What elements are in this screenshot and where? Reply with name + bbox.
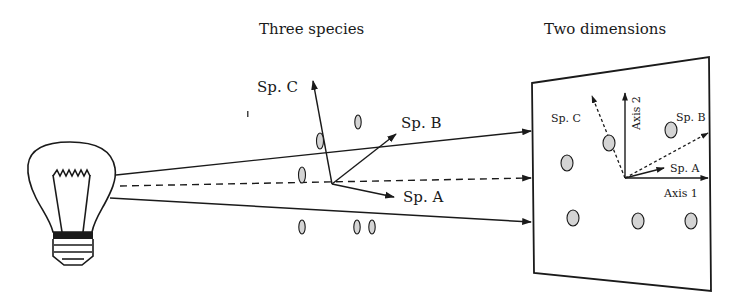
point-2d [632,213,644,229]
ray-center-dashed [120,178,531,186]
point-3d [354,220,360,234]
label-sp-c: Sp. C [257,78,298,96]
point-2d [603,135,615,151]
axis-sp-a [332,184,394,197]
projection-panel: Sp. C Sp. B Sp. A Axis 1 Axis 2 [532,57,711,291]
point-2d [567,210,579,226]
axis-sp-c [313,81,332,184]
label-sp-a: Sp. A [403,188,443,206]
panel-label-sp-a: Sp. A [670,162,701,175]
ray-bottom [110,198,531,222]
ordination-diagram: Three species Two dimensions Sp. C Sp. B… [0,0,739,307]
speck [247,111,249,117]
panel-label-sp-c: Sp. C [551,112,581,125]
two-dimensions-title: Two dimensions [544,20,666,38]
point-3d [369,220,375,234]
point-3d [355,115,361,129]
sample-points-3d [299,115,376,234]
panel-label-sp-b: Sp. B [676,111,706,124]
panel-label-axis-1: Axis 1 [663,187,698,200]
light-bulb-icon [28,142,116,265]
point-3d [299,220,305,234]
point-3d [317,133,324,149]
point-2d [685,213,697,229]
three-species-title: Three species [259,20,364,38]
axis-sp-b [332,134,396,184]
point-2d [561,155,573,171]
point-3d [299,167,306,183]
panel-label-axis-2: Axis 2 [630,96,643,131]
point-2d [665,122,677,138]
label-sp-b: Sp. B [401,114,441,132]
three-species-axes: Sp. C Sp. B Sp. A [257,78,443,206]
